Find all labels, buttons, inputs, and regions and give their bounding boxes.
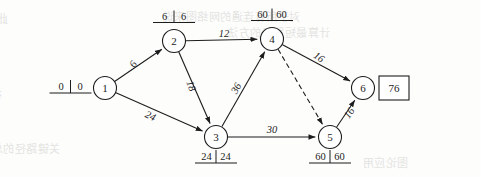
- edge-weight-5-6: 16: [342, 105, 357, 120]
- edge-2-to-4: [186, 39, 257, 40]
- node-5[interactable]: 5: [319, 126, 342, 149]
- event-times-node-1: 00: [50, 80, 92, 93]
- earliest-time-node-3: 24: [201, 151, 212, 162]
- node-label-6: 6: [360, 82, 366, 94]
- node-label-1: 1: [102, 82, 108, 94]
- node-label-5: 5: [327, 131, 333, 143]
- edges-layer: 624121836301616: [115, 28, 357, 137]
- edge-weight-1-2: 6: [127, 58, 139, 69]
- edge-weight-3-5: 30: [266, 124, 278, 135]
- edge-weight-4-6: 16: [312, 50, 327, 65]
- node-4[interactable]: 4: [261, 28, 284, 51]
- network-diagram-canvas: 此时候，有关运算符号的执行对于所有连通的网络图来说计算最短路径的方法在此基础上继…: [0, 0, 481, 177]
- project-duration-box: 76: [379, 76, 409, 100]
- latest-time-node-2: 6: [181, 11, 186, 22]
- node-label-2: 2: [171, 35, 177, 47]
- node-2[interactable]: 2: [163, 30, 186, 53]
- latest-time-node-4: 60: [276, 9, 287, 20]
- edge-weight-3-4: 36: [228, 80, 244, 96]
- edge-1-to-3: [116, 93, 203, 131]
- node-6[interactable]: 6: [352, 77, 375, 100]
- node-label-4: 4: [269, 33, 275, 45]
- event-times-node-3: 2424: [195, 150, 237, 163]
- latest-time-node-1: 0: [77, 81, 82, 92]
- event-times-node-4: 6060: [251, 9, 293, 21]
- node-label-3: 3: [213, 131, 219, 143]
- latest-time-node-5: 60: [334, 151, 345, 162]
- earliest-time-node-1: 0: [58, 81, 63, 92]
- earliest-time-node-2: 6: [162, 11, 167, 22]
- node-3[interactable]: 3: [205, 126, 228, 149]
- project-duration-value: 76: [389, 82, 401, 94]
- latest-time-node-3: 24: [220, 151, 231, 162]
- event-times-node-2: 66: [153, 11, 195, 23]
- node-1[interactable]: 1: [94, 77, 117, 100]
- edge-weight-2-4: 12: [219, 28, 230, 39]
- event-times-node-5: 6060: [309, 150, 351, 163]
- network-graph: 624121836301616 123456 0066242460606060 …: [0, 0, 481, 177]
- earliest-time-node-4: 60: [257, 9, 268, 20]
- earliest-time-node-5: 60: [315, 151, 326, 162]
